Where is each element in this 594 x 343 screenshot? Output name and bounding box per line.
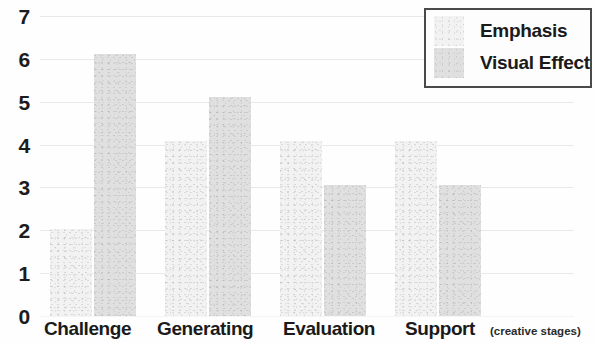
bar-group-challenge — [50, 0, 146, 316]
legend-label-visual-effect: Visual Effect — [480, 52, 590, 74]
legend-label-emphasis: Emphasis — [480, 20, 567, 42]
y-tick-label-1: 1 — [6, 263, 30, 284]
x-tick-label-generating: Generating — [157, 319, 253, 338]
legend-entry-visual-effect: Visual Effect — [434, 48, 590, 78]
bar-support-emphasis — [395, 141, 437, 316]
y-tick-label-4: 4 — [6, 135, 30, 156]
x-tick-label-evaluation: Evaluation — [283, 319, 375, 338]
y-tick-label-7: 7 — [6, 6, 30, 27]
y-tick-label-0: 0 — [6, 306, 30, 327]
bar-support-visual-effect — [439, 185, 481, 316]
bar-group-evaluation — [280, 0, 376, 316]
bar-evaluation-emphasis — [280, 141, 322, 316]
chart-legend: Emphasis Visual Effect — [424, 8, 592, 88]
bar-chart: 7 6 5 4 3 2 1 0 Challenge Generating Eva… — [0, 0, 594, 343]
bar-evaluation-visual-effect — [324, 185, 366, 316]
bar-challenge-emphasis — [50, 229, 92, 316]
y-tick-label-6: 6 — [6, 49, 30, 70]
gridline-0 — [40, 316, 574, 317]
bar-generating-visual-effect — [209, 97, 251, 316]
bar-generating-emphasis — [165, 141, 207, 316]
bar-group-generating — [165, 0, 261, 316]
legend-entry-emphasis: Emphasis — [434, 16, 567, 46]
x-tick-label-challenge: Challenge — [44, 319, 131, 338]
bar-challenge-visual-effect — [94, 54, 136, 316]
legend-swatch-visual-effect — [434, 48, 464, 78]
x-axis-title: (creative stages) — [490, 326, 581, 338]
legend-swatch-emphasis — [434, 16, 464, 46]
y-tick-label-2: 2 — [6, 220, 30, 241]
y-tick-label-5: 5 — [6, 92, 30, 113]
y-tick-label-3: 3 — [6, 177, 30, 198]
x-tick-label-support: Support — [405, 319, 475, 338]
